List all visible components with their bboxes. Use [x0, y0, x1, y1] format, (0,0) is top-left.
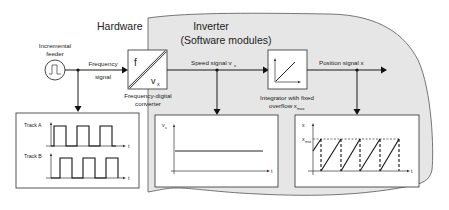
- position-signal-label: Position signal x: [319, 59, 365, 66]
- integrator-block: [268, 50, 307, 89]
- svg-text:x: x: [234, 63, 236, 68]
- arrow-head: [122, 67, 128, 74]
- svg-text:x: x: [302, 122, 305, 128]
- frequency-signal-label-2: signal: [95, 73, 111, 80]
- frequency-digital-converter: f v x: [128, 50, 167, 89]
- svg-text:Track B: Track B: [24, 153, 42, 159]
- feeder-label-2: feeder: [46, 50, 64, 57]
- speed-signal-label: Speed signal v: [191, 59, 232, 66]
- integrator-label-2: overflow x: [269, 102, 298, 109]
- frequency-signal-label: Frequency: [88, 60, 118, 67]
- integrator-label: Integrator with fixed: [260, 94, 315, 101]
- svg-text:x: x: [165, 126, 167, 130]
- hardware-label: Hardware: [97, 20, 143, 32]
- svg-text:Track A: Track A: [24, 122, 42, 128]
- converter-label: Frequency-digital: [124, 92, 171, 99]
- inverter-label: Inverter: [193, 20, 229, 32]
- svg-text:x: x: [157, 81, 160, 87]
- incremental-feeder-icon: [45, 60, 65, 80]
- speed-plot: v x t: [155, 115, 278, 187]
- position-plot: x x max t: [295, 115, 419, 187]
- converter-label-2: converter: [135, 100, 161, 107]
- svg-text:f: f: [134, 57, 137, 68]
- feeder-label: Incremental: [39, 42, 71, 49]
- svg-text:v: v: [151, 76, 156, 86]
- track-plot: Track A Track B t t: [16, 113, 139, 188]
- svg-text:max: max: [305, 140, 311, 144]
- block-diagram: Hardware Inverter (Software modules) Inc…: [0, 0, 449, 210]
- svg-text:max: max: [297, 106, 305, 111]
- inverter-sublabel: (Software modules): [180, 34, 271, 46]
